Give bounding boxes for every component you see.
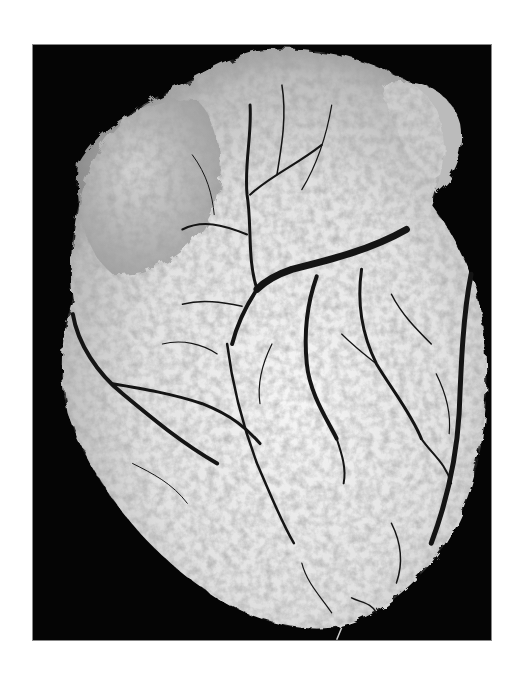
apex-vessel-stub [337,628,342,640]
heart-illustration [33,45,491,640]
heart-photograph: Heart with branching coronary vessels [32,44,492,641]
capillary-texture [62,50,486,629]
